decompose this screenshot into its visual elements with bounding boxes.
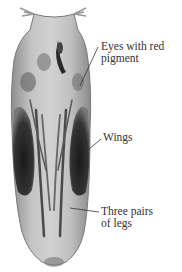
label-eyes: Eyes with red pigment	[101, 40, 164, 64]
label-legs-line2: of legs	[101, 217, 153, 229]
pupa-figure: Eyes with red pigment Wings Three pairs …	[0, 0, 182, 272]
anterior-spiracles	[20, 8, 86, 16]
posterior-tip	[44, 257, 64, 267]
label-wings: Wings	[103, 131, 133, 143]
label-eyes-line2: pigment	[101, 52, 164, 64]
label-wings-line1: Wings	[103, 131, 133, 143]
label-legs: Three pairs of legs	[101, 205, 153, 229]
label-legs-line1: Three pairs	[101, 205, 153, 217]
label-eyes-line1: Eyes with red	[101, 40, 164, 52]
